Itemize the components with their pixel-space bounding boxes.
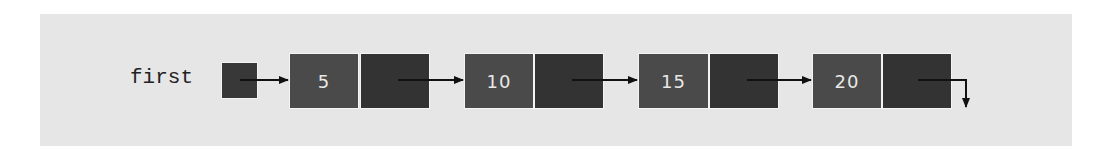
arrow-null-terminator: [918, 80, 966, 107]
link-arrows: [0, 0, 1110, 149]
